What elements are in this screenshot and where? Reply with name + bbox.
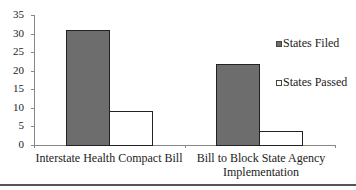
x-category-label-line: Bill to Block State Agency <box>186 151 336 165</box>
bar-chart: 0 5 10 15 20 25 30 35 States Filed State… <box>0 0 356 190</box>
legend-swatch-passed <box>276 80 282 86</box>
legend-item-states-passed: States Passed <box>276 75 347 90</box>
x-category-label: Interstate Health Compact Bill <box>34 151 184 165</box>
legend-label: States Passed <box>283 75 347 90</box>
y-axis <box>34 15 35 145</box>
x-category-label-line: Implementation <box>186 165 336 179</box>
bar-states-passed-interstate <box>109 111 153 146</box>
x-tick-mark <box>34 145 35 148</box>
y-tick-label: 0 <box>4 138 24 150</box>
bar-states-filed-interstate <box>66 30 110 146</box>
x-tick-mark <box>185 145 186 148</box>
y-tick-label: 25 <box>4 45 24 57</box>
x-category-label: Bill to Block State Agency Implementatio… <box>186 151 336 179</box>
bar-states-passed-block <box>259 131 303 146</box>
y-tick-label: 10 <box>4 101 24 113</box>
y-tick-label: 30 <box>4 27 24 39</box>
y-tick-label: 5 <box>4 119 24 131</box>
y-tick-label: 15 <box>4 82 24 94</box>
y-tick-label: 35 <box>4 8 24 20</box>
legend-item-states-filed: States Filed <box>276 36 339 51</box>
legend-label: States Filed <box>283 36 339 51</box>
bar-states-filed-block <box>216 64 260 146</box>
divider <box>0 184 356 186</box>
legend-swatch-filed <box>276 41 282 47</box>
y-tick-label: 20 <box>4 64 24 76</box>
x-tick-mark <box>335 145 336 148</box>
